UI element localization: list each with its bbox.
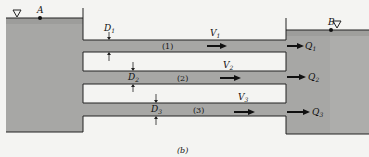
surface-symbol-left <box>13 10 21 17</box>
pipe-2-id: (2) <box>177 74 188 83</box>
parallel-pipes-diagram: A B D1 D2 D3 (1) (2) (3) V1 V2 V3 <box>0 0 369 157</box>
v2-label: V2 <box>223 60 234 71</box>
point-a-marker <box>38 16 42 20</box>
point-a-label: A <box>36 5 44 15</box>
v1-label: V1 <box>210 28 220 39</box>
pipe-1-id: (1) <box>162 42 173 51</box>
v3-label: V3 <box>238 92 249 103</box>
pipe-1 <box>83 40 286 52</box>
figure-caption: (b) <box>177 146 188 155</box>
d1-label: D1 <box>103 23 115 34</box>
point-b-label: B <box>327 17 335 27</box>
point-b-marker <box>329 28 333 32</box>
pipe-3-id: (3) <box>193 106 204 115</box>
pipe-3 <box>83 103 286 116</box>
left-reservoir <box>6 8 83 132</box>
